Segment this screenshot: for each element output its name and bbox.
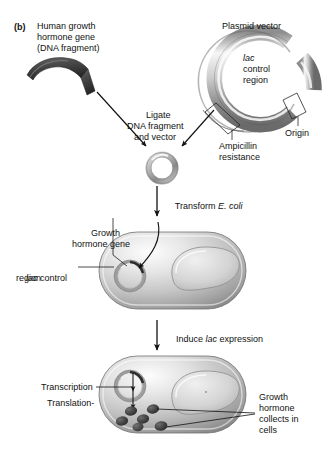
transcription-label: Transcription	[41, 382, 93, 393]
translation-label: Translation-	[47, 398, 94, 409]
cell-lac-control-label-line2: region	[16, 273, 41, 284]
fragment-label-line1: Human growth	[37, 21, 96, 32]
ligate-label-line2: DNA fragment	[127, 121, 184, 132]
panel-label: (b)	[14, 22, 26, 33]
ligate-label-line3: and vector	[134, 132, 176, 143]
transform-step-text: Transform	[175, 201, 218, 211]
collects-label-line3: collects in	[259, 414, 299, 425]
induce-pre-text: Induce	[176, 334, 206, 344]
arrow-vector-to-ligate	[182, 110, 214, 146]
translation-text: Translation	[47, 398, 91, 408]
plasmid-vector-label: Plasmid vector	[222, 21, 281, 32]
lac-italic-induce: lac	[206, 334, 218, 344]
lac-control-label-line3: region	[243, 75, 268, 86]
ligate-label-line1: Ligate	[146, 110, 171, 121]
bacterial-cell-bottom	[96, 356, 255, 433]
growth-hormone-gene-label-line2: hormone gene	[72, 239, 130, 250]
ampicillin-label-line2: resistance	[219, 152, 260, 163]
fragment-label-line3: (DNA fragment)	[37, 43, 100, 54]
growth-hormone-gene-label-line1: Growth	[91, 228, 120, 239]
induce-step-label: Induce lac expression	[166, 323, 263, 355]
lac-control-rest: control	[38, 273, 68, 283]
dna-fragment-graphic	[27, 58, 95, 95]
collects-label-line4: cells	[259, 425, 277, 436]
collects-label-line2: hormone	[259, 403, 295, 414]
collects-label-line1: Growth	[259, 392, 288, 403]
fragment-label-line2: hormone gene	[37, 32, 95, 43]
induce-post-text: expression	[217, 334, 263, 344]
ecoli-italic: E. coli	[218, 201, 243, 211]
ampicillin-label-line1: Ampicillin	[219, 141, 257, 152]
lac-control-label-line2: control	[243, 64, 270, 75]
figure-panel-b: (b) Human growth hormone gene (DNA fragm…	[0, 0, 323, 457]
transform-step-label: Transform E. coli	[165, 190, 243, 222]
lac-control-label-line1: lac	[243, 53, 255, 64]
recombinant-plasmid-graphic	[146, 152, 177, 183]
origin-label: Origin	[285, 128, 309, 139]
